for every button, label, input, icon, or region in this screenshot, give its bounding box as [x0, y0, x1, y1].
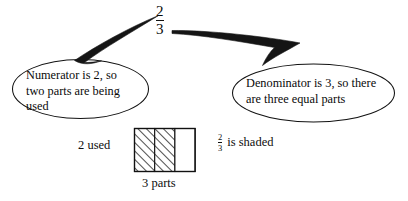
- denominator-leader-tail: [172, 30, 300, 65]
- bar-part-2-shaded: [155, 129, 175, 172]
- denominator-callout-text: Denominator is 3, so there are three equ…: [246, 76, 376, 107]
- total-parts-label: 3 parts: [142, 176, 176, 191]
- shaded-caption-text: is shaded: [227, 135, 273, 150]
- shaded-fraction-denominator: 3: [218, 144, 222, 153]
- bar-part-1-shaded: [135, 129, 155, 172]
- numerator-callout-text: Numerator is 2, so two parts are being u…: [26, 68, 120, 115]
- fraction-parts-diagram: 2 3 Numerator is 2, so two parts are bei…: [0, 0, 408, 201]
- main-fraction: 2 3: [156, 4, 164, 37]
- main-fraction-denominator: 3: [156, 22, 164, 37]
- numerator-leader-tail: [75, 16, 159, 64]
- shaded-fraction-caption: 2 3 is shaded: [218, 133, 273, 152]
- shaded-fraction: 2 3: [218, 133, 222, 152]
- used-parts-label: 2 used: [78, 138, 110, 153]
- bar-part-3-empty: [175, 129, 195, 172]
- shaded-fraction-numerator: 2: [218, 133, 222, 142]
- bar-model-rectangle: [135, 129, 196, 172]
- main-fraction-numerator: 2: [156, 4, 164, 19]
